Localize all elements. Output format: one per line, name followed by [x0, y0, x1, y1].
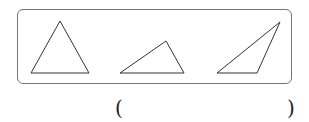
triangles-figure: [0, 0, 309, 122]
triangle-3: [217, 22, 280, 73]
triangle-2: [120, 41, 184, 73]
answer-close-paren: ): [287, 98, 295, 118]
triangle-1: [31, 21, 89, 73]
answer-open-paren: (: [115, 98, 123, 118]
